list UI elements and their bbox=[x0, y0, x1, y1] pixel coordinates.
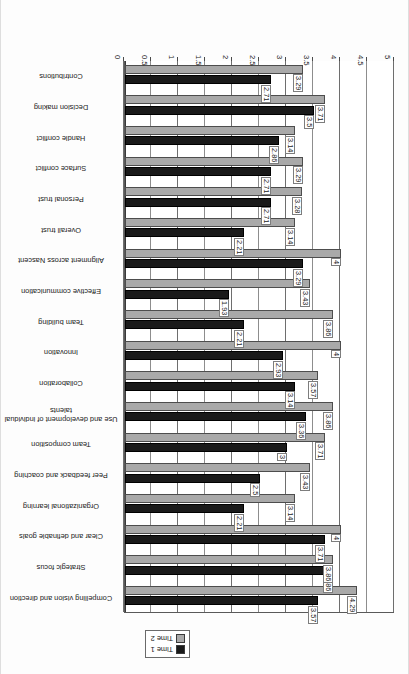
bar-time-1 bbox=[125, 136, 279, 145]
axis-tick-label: 3.5 bbox=[302, 55, 310, 66]
category-label: Clear and definable goals bbox=[4, 532, 118, 541]
category-label: Strategic focus bbox=[4, 563, 118, 572]
bar-value-label: 4 bbox=[331, 258, 341, 266]
category-label: Personal trust bbox=[4, 195, 118, 204]
bar-value-label: 3.71 bbox=[315, 545, 325, 563]
axis-tick-label: 2.5 bbox=[248, 55, 256, 66]
bar-time-2 bbox=[125, 494, 295, 503]
bar-value-label: 3.86 bbox=[323, 565, 333, 583]
axis-tick bbox=[366, 57, 367, 61]
bar-chart-figure: Time 1 Time 2 3.574.293.863.863.7142.213… bbox=[0, 0, 409, 674]
bar-value-label: 2.21 bbox=[234, 238, 244, 256]
axis-tick-label: 1 bbox=[167, 55, 175, 59]
bar-value-label: 3.71 bbox=[315, 105, 325, 123]
bar-time-1 bbox=[125, 198, 271, 207]
axis-tick-label: 0.5 bbox=[140, 55, 148, 66]
gridline bbox=[393, 61, 394, 612]
legend-label-time-2: Time 2 bbox=[151, 634, 173, 643]
bar-time-1 bbox=[125, 351, 283, 360]
bar-time-2 bbox=[125, 586, 357, 595]
bar-time-2 bbox=[125, 126, 295, 135]
bar-value-label: 4.29 bbox=[347, 596, 357, 614]
category-label: Peer feedback and coaching bbox=[4, 471, 118, 480]
bar-time-1 bbox=[125, 290, 229, 299]
bar-value-label: 3.14 bbox=[285, 228, 295, 246]
bar-time-1 bbox=[125, 596, 318, 605]
category-label: Organizational learning bbox=[4, 501, 118, 510]
bar-value-label: 3.14 bbox=[285, 391, 295, 409]
axis-tick-label: 1.5 bbox=[194, 55, 202, 66]
bar-value-label: 4 bbox=[331, 534, 341, 542]
bar-time-2 bbox=[125, 371, 318, 380]
bar-time-1 bbox=[125, 320, 244, 329]
bar-value-label: 3.29 bbox=[293, 166, 303, 184]
category-label: Alignment across Nascent bbox=[4, 256, 118, 265]
bar-time-2 bbox=[125, 310, 333, 319]
bar-value-label: 3.57 bbox=[308, 381, 318, 399]
bar-value-label: 3.36 bbox=[296, 422, 306, 440]
bar-value-label: 3.5 bbox=[304, 115, 314, 129]
bar-time-1 bbox=[125, 106, 314, 115]
bar-value-label: 3 bbox=[277, 453, 287, 461]
bar-value-label: 2.71 bbox=[261, 177, 271, 195]
category-label: Effective communication bbox=[4, 287, 118, 296]
bar-value-label: 3.28 bbox=[292, 197, 302, 215]
axis-tick bbox=[285, 57, 286, 61]
bar-time-1 bbox=[125, 535, 325, 544]
bar-value-label: 1.93 bbox=[219, 299, 229, 317]
bar-value-label: 3.86 bbox=[323, 320, 333, 338]
gridline bbox=[366, 61, 367, 612]
bar-value-label: 3.71 bbox=[315, 442, 325, 460]
bar-value-label: 3.57 bbox=[308, 606, 318, 624]
bar-value-label: 2.86 bbox=[269, 146, 279, 164]
bar-time-1 bbox=[125, 75, 271, 84]
bar-value-label: 3.14 bbox=[285, 136, 295, 154]
bar-time-1 bbox=[125, 259, 303, 268]
axis-tick-label: 0 bbox=[113, 55, 121, 59]
axis-tick-label: 4 bbox=[329, 55, 337, 59]
category-label: Team building bbox=[4, 317, 118, 326]
category-label: Handle conflict bbox=[4, 133, 118, 142]
axis-tick bbox=[204, 57, 205, 61]
bar-value-label: 3.29 bbox=[293, 74, 303, 92]
axis-tick bbox=[177, 57, 178, 61]
bar-time-1 bbox=[125, 443, 287, 452]
bar-time-2 bbox=[125, 249, 341, 258]
bar-value-label: 2.5 bbox=[250, 483, 260, 497]
axis-tick bbox=[231, 57, 232, 61]
bar-value-label: 2.21 bbox=[234, 330, 244, 348]
axis-tick bbox=[312, 57, 313, 61]
category-label: Contributions bbox=[4, 72, 118, 81]
bar-time-1 bbox=[125, 566, 333, 575]
bar-time-2 bbox=[125, 402, 333, 411]
bar-value-label: 2.71 bbox=[261, 85, 271, 103]
bar-time-2 bbox=[125, 525, 341, 534]
axis-tick bbox=[339, 57, 340, 61]
bar-time-2 bbox=[125, 95, 325, 104]
bar-time-2 bbox=[125, 65, 303, 74]
gray-square-icon bbox=[176, 634, 185, 643]
bar-time-1 bbox=[125, 228, 244, 237]
bar-time-1 bbox=[125, 412, 306, 421]
category-label: Use and development of individual talent… bbox=[4, 405, 118, 422]
category-label: Compelling vision and direction bbox=[4, 593, 118, 602]
category-label: Collaboration bbox=[4, 379, 118, 388]
bar-value-label: 3.86 bbox=[323, 412, 333, 430]
chart-legend: Time 1 Time 2 bbox=[145, 630, 190, 658]
category-label: Innovation bbox=[4, 348, 118, 357]
bar-value-label: 4 bbox=[331, 350, 341, 358]
category-label: Surface conflict bbox=[4, 164, 118, 173]
black-square-icon bbox=[176, 645, 185, 654]
bar-time-2 bbox=[125, 187, 302, 196]
axis-tick-label: 4.5 bbox=[356, 55, 364, 66]
gridline bbox=[123, 61, 124, 612]
bar-time-1 bbox=[125, 167, 271, 176]
axis-tick bbox=[258, 57, 259, 61]
axis-tick-label: 5 bbox=[383, 55, 391, 59]
legend-item-time-1: Time 1 bbox=[151, 645, 185, 654]
axis-tick-label: 2 bbox=[221, 55, 229, 59]
plot-area: 3.574.293.863.863.7142.213.142.53.4333.7… bbox=[124, 61, 394, 613]
legend-item-time-2: Time 2 bbox=[151, 634, 185, 643]
axis-tick bbox=[150, 57, 151, 61]
legend-label-time-1: Time 1 bbox=[151, 645, 173, 654]
